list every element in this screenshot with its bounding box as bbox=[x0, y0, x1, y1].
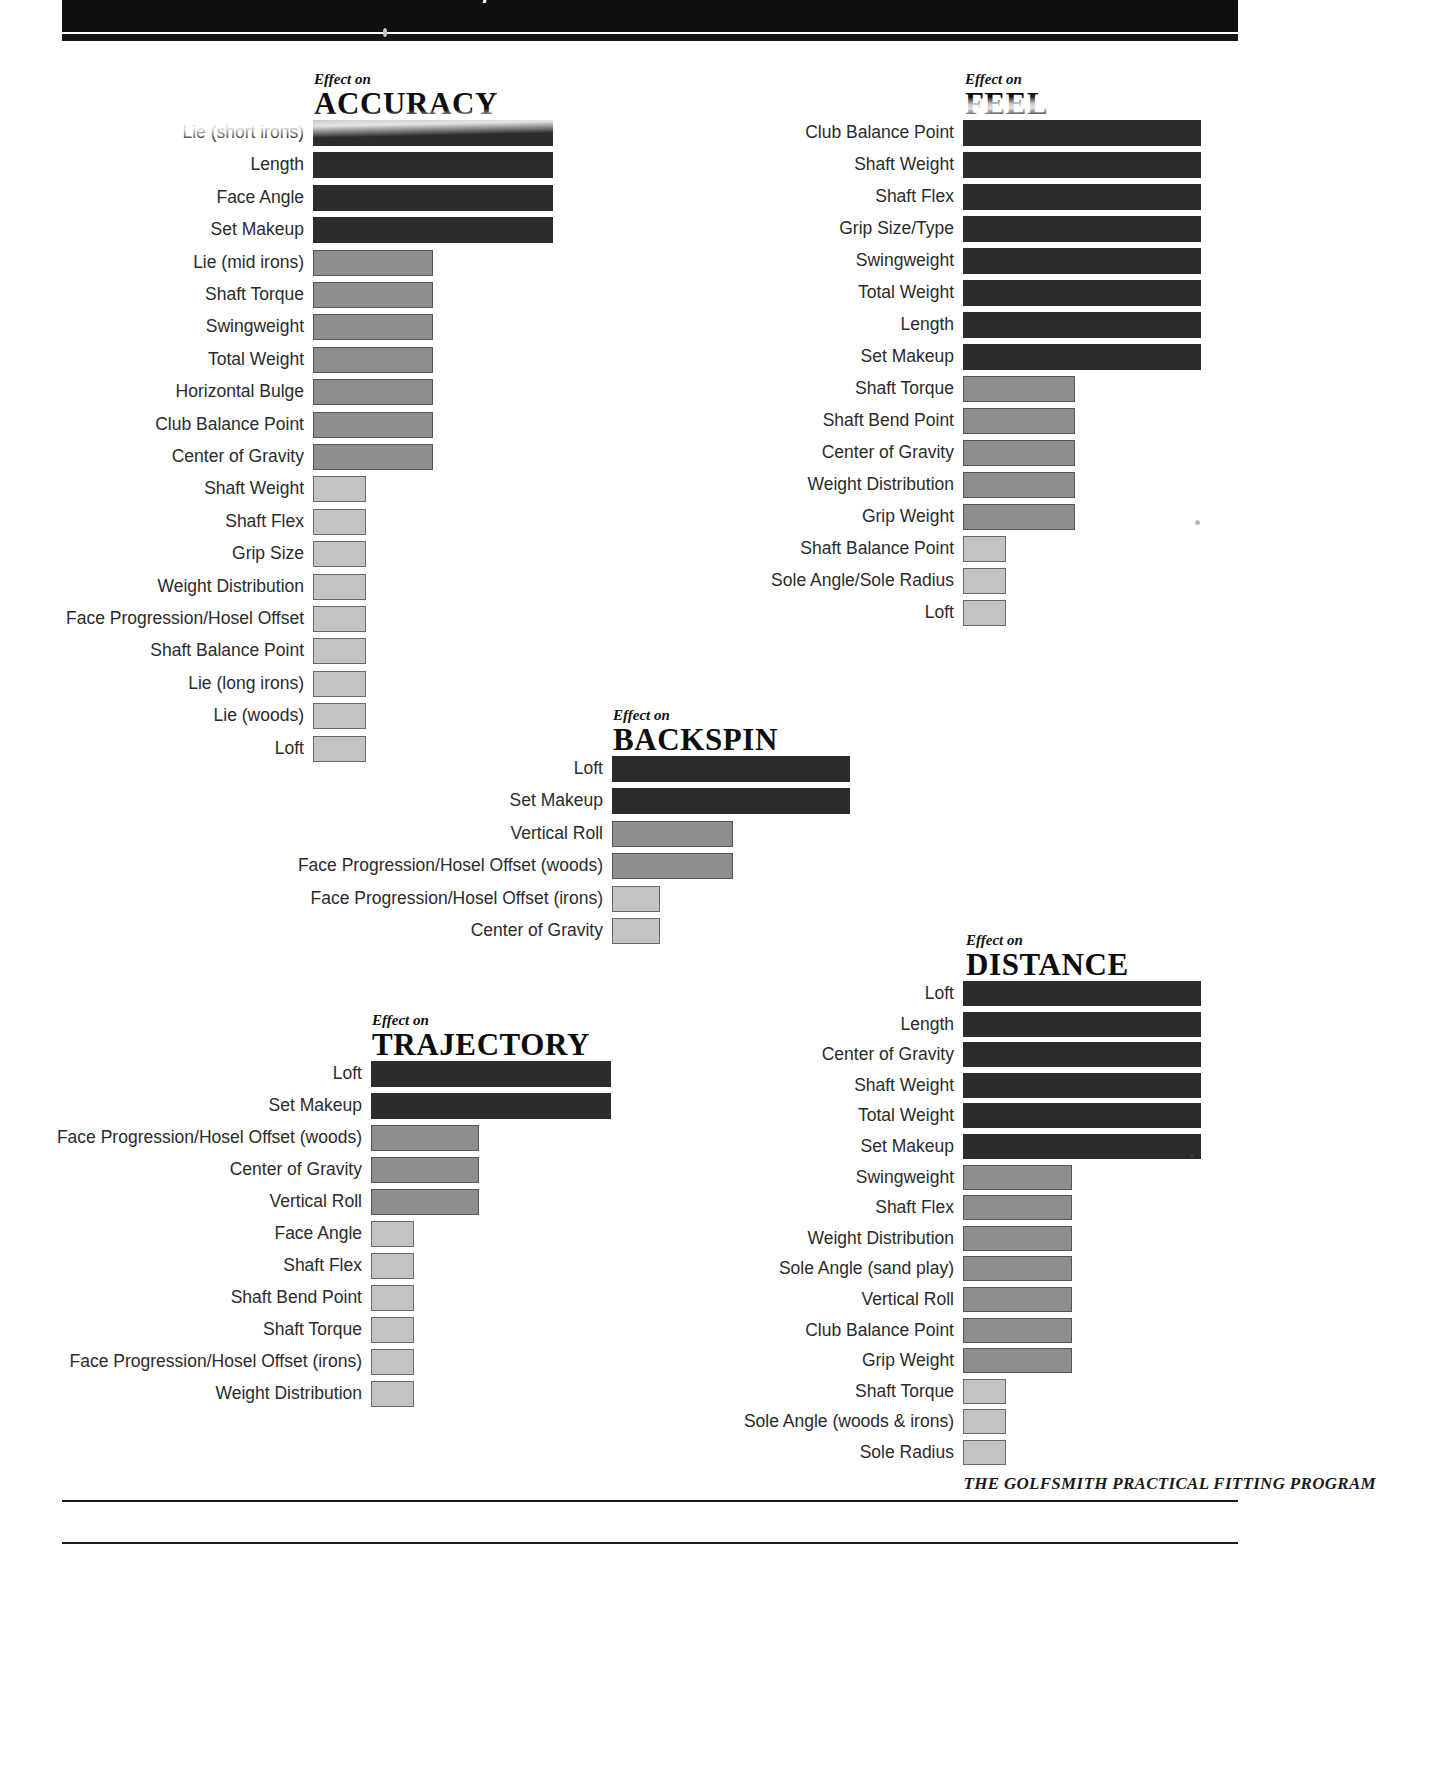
bar-row: Total Weight bbox=[623, 1100, 1201, 1131]
bar bbox=[963, 1409, 1006, 1434]
bar-label: Vertical Roll bbox=[6, 1193, 371, 1211]
bar bbox=[963, 1226, 1072, 1251]
bar-row: Set Makeup bbox=[8, 214, 553, 246]
bar-row: Shaft Flex bbox=[8, 506, 366, 538]
bar-label: Swingweight bbox=[623, 1169, 963, 1187]
bar bbox=[963, 1379, 1006, 1404]
bar-row: Face Angle bbox=[6, 1218, 414, 1250]
chart-title: TRAJECTORY bbox=[372, 1029, 590, 1060]
footer-credit: THE GOLFSMITH PRACTICAL FITTING PROGRAM bbox=[963, 1474, 1376, 1494]
bar-label: Shaft Flex bbox=[6, 1257, 371, 1275]
bar-row: Shaft Flex bbox=[6, 1250, 414, 1282]
bar-label: Loft bbox=[658, 604, 963, 622]
banner-rule bbox=[62, 34, 1238, 41]
bar-row: Swingweight bbox=[8, 311, 433, 343]
bar-label: Center of Gravity bbox=[172, 922, 612, 940]
bar-row: Shaft Flex bbox=[623, 1192, 1072, 1223]
bar bbox=[313, 250, 433, 276]
chart-trajectory-heading: Effect on TRAJECTORY bbox=[372, 1013, 590, 1060]
bar-label: Sole Angle (woods & irons) bbox=[623, 1413, 963, 1431]
bar-row: Loft bbox=[623, 978, 1201, 1009]
bar-label: Shaft Weight bbox=[623, 1077, 963, 1095]
scan-speck bbox=[1195, 520, 1200, 525]
bar bbox=[963, 568, 1006, 594]
bar bbox=[313, 120, 553, 146]
bar-row: Shaft Balance Point bbox=[8, 635, 366, 667]
bar-row: Shaft Weight bbox=[623, 1070, 1201, 1101]
bar-label: Total Weight bbox=[658, 284, 963, 302]
bar bbox=[963, 600, 1006, 626]
bar-row: Sole Angle/Sole Radius bbox=[658, 565, 1006, 597]
bar-row: Grip Weight bbox=[623, 1345, 1072, 1376]
bar-label: Weight Distribution bbox=[6, 1385, 371, 1403]
bar-row: Weight Distribution bbox=[8, 571, 366, 603]
bar-label: Shaft Weight bbox=[658, 156, 963, 174]
chart-backspin-heading: Effect on BACKSPIN bbox=[613, 708, 778, 755]
chart-eyebrow: Effect on bbox=[965, 72, 1048, 87]
bar-label: Length bbox=[8, 156, 313, 174]
bar-label: Weight Distribution bbox=[623, 1230, 963, 1248]
bar bbox=[963, 1318, 1072, 1343]
bar-label: Center of Gravity bbox=[658, 444, 963, 462]
bar bbox=[313, 444, 433, 470]
bar-row: Total Weight bbox=[8, 344, 433, 376]
chart-feel-heading: Effect on FEEL bbox=[965, 72, 1048, 119]
bar-label: Loft bbox=[6, 1065, 371, 1083]
bar-row: Weight Distribution bbox=[658, 469, 1075, 501]
bar-label: Face Progression/Hosel Offset (woods) bbox=[6, 1129, 371, 1147]
bar bbox=[612, 918, 660, 944]
bar-label: Length bbox=[658, 316, 963, 334]
bar-row: Lie (short irons) bbox=[8, 117, 553, 149]
bar bbox=[963, 1134, 1201, 1159]
bar-label: Center of Gravity bbox=[8, 448, 313, 466]
bar-row: Horizontal Bulge bbox=[8, 376, 433, 408]
chart-title: FEEL bbox=[965, 88, 1048, 119]
bar-label: Sole Angle (sand play) bbox=[623, 1260, 963, 1278]
bar-label: Sole Angle/Sole Radius bbox=[658, 572, 963, 590]
bar-label: Set Makeup bbox=[658, 348, 963, 366]
bar-row: Club Balance Point bbox=[623, 1315, 1072, 1346]
bar-label: Set Makeup bbox=[623, 1138, 963, 1156]
bar-label: Shaft Flex bbox=[623, 1199, 963, 1217]
bar-label: Face Progression/Hosel Offset (irons) bbox=[6, 1353, 371, 1371]
bar-row: Face Progression/Hosel Offset bbox=[8, 603, 366, 635]
bar-label: Total Weight bbox=[8, 351, 313, 369]
bar-label: Length bbox=[623, 1016, 963, 1034]
bar bbox=[371, 1317, 414, 1343]
bar bbox=[963, 1256, 1072, 1281]
bar-row: Center of Gravity bbox=[6, 1154, 479, 1186]
bar-row: Center of Gravity bbox=[172, 915, 660, 947]
bar bbox=[313, 606, 366, 632]
bar bbox=[612, 853, 733, 879]
bar-row: Club Balance Point bbox=[658, 117, 1201, 149]
bar-row: Shaft Bend Point bbox=[6, 1282, 414, 1314]
bar bbox=[313, 314, 433, 340]
chart-accuracy-heading: Effect on ACCURACY bbox=[314, 72, 498, 119]
bar bbox=[963, 312, 1201, 338]
bar-label: Shaft Torque bbox=[623, 1383, 963, 1401]
bar-row: Club Balance Point bbox=[8, 409, 433, 441]
bar-row: Shaft Torque bbox=[8, 279, 433, 311]
bar-row: Set Makeup bbox=[658, 341, 1201, 373]
page-title: Effects of Golf Club Specifications on S… bbox=[64, 0, 1236, 4]
bar-label: Weight Distribution bbox=[8, 578, 313, 596]
bar-label: Set Makeup bbox=[8, 221, 313, 239]
bar-label: Set Makeup bbox=[172, 792, 612, 810]
bar-row: Set Makeup bbox=[172, 785, 850, 817]
bar-row: Center of Gravity bbox=[658, 437, 1075, 469]
bar-row: Lie (mid irons) bbox=[8, 247, 433, 279]
bar-row: Grip Size/Type bbox=[658, 213, 1201, 245]
bar-label: Lie (woods) bbox=[8, 707, 313, 725]
bar bbox=[963, 1348, 1072, 1373]
bar-row: Length bbox=[8, 149, 553, 181]
bar-row: Shaft Torque bbox=[658, 373, 1075, 405]
bar bbox=[963, 1165, 1072, 1190]
bar-label: Face Progression/Hosel Offset (woods) bbox=[172, 857, 612, 875]
bar-row: Lie (woods) bbox=[8, 700, 366, 732]
bar-label: Center of Gravity bbox=[6, 1161, 371, 1179]
bar bbox=[371, 1061, 611, 1087]
bar-row: Vertical Roll bbox=[172, 818, 733, 850]
bar-label: Lie (short irons) bbox=[8, 124, 313, 142]
bar-label: Grip Weight bbox=[623, 1352, 963, 1370]
bar bbox=[371, 1285, 414, 1311]
